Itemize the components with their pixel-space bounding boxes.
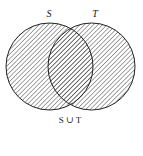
set-s-label: S xyxy=(47,8,52,19)
union-caption: S ∪ T xyxy=(59,115,82,125)
union-shaded-region xyxy=(6,23,135,110)
set-t-label: T xyxy=(92,8,99,19)
venn-diagram: S T S ∪ T xyxy=(0,0,143,156)
